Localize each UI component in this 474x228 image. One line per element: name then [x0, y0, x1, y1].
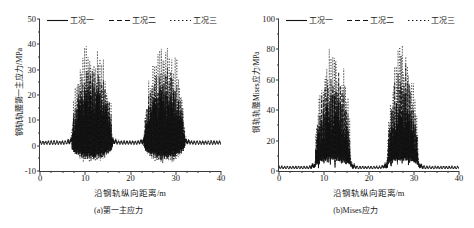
x-tick-mark-minor	[301, 171, 302, 173]
legend-key-solid-icon	[286, 17, 307, 24]
y-axis-label-a: 钢轨轨腰第一主应力/MPa	[13, 8, 27, 176]
legend-label-1: 工况一	[70, 16, 94, 25]
x-tick-mark-minor	[335, 171, 336, 173]
legend-key-dotted-icon	[170, 17, 191, 24]
x-tick-mark-minor	[436, 171, 437, 173]
x-tick-mark	[175, 171, 176, 175]
legend-item-2[interactable]: 工况二	[109, 16, 156, 25]
x-tick-mark	[414, 171, 415, 175]
curve-layer	[279, 19, 459, 171]
x-tick-mark	[369, 171, 370, 175]
curve-layer	[40, 19, 221, 171]
legend-key-dashed-icon	[347, 17, 368, 24]
x-tick-mark-minor	[402, 171, 403, 173]
x-axis-label-b: 沿钢轨纵向距离/m	[278, 186, 459, 198]
x-tick-mark-minor	[153, 171, 154, 173]
y-axis-label-b: 钢轨轨腰Mises应力/MPa	[250, 6, 264, 178]
x-tick-mark-minor	[346, 171, 347, 173]
legend-label-3: 工况三	[431, 16, 455, 25]
caption-a: (a)第一主应力	[0, 204, 237, 215]
legend-label-2: 工况二	[132, 16, 156, 25]
series-curve-工况三	[40, 46, 221, 162]
panel-first-principal-stress: 钢轨轨腰第一主应力/MPa -1001020304050010203040 工况…	[0, 0, 237, 228]
x-tick-mark-minor	[73, 171, 74, 173]
x-tick-mark-minor	[51, 171, 52, 173]
legend-item-3[interactable]: 工况三	[170, 16, 217, 25]
legend-item-3[interactable]: 工况三	[408, 16, 455, 25]
x-tick-mark-minor	[209, 171, 210, 173]
series-curve-工况一	[40, 83, 221, 161]
plot-area-b: 020406080100010203040	[278, 19, 459, 172]
legend-item-1[interactable]: 工况一	[47, 16, 94, 25]
x-tick-mark-minor	[380, 171, 381, 173]
x-tick-mark-minor	[107, 171, 108, 173]
x-tick-mark	[85, 171, 86, 175]
x-tick-mark-minor	[391, 171, 392, 173]
legend-key-dashed-icon	[109, 17, 130, 24]
x-tick-mark-minor	[96, 171, 97, 173]
x-tick-mark	[40, 171, 41, 175]
x-tick-mark-minor	[312, 171, 313, 173]
x-tick-mark	[221, 171, 222, 175]
series-curve-工况二	[279, 65, 459, 169]
series-curve-工况三	[279, 45, 459, 169]
x-tick-mark-minor	[164, 171, 165, 173]
caption-b: (b)Mises应力	[237, 204, 474, 215]
panel-mises-stress: 钢轨轨腰Mises应力/MPa 020406080100010203040 工况…	[237, 0, 474, 228]
x-tick-mark	[324, 171, 325, 175]
legend-item-2[interactable]: 工况二	[347, 16, 394, 25]
x-tick-mark-minor	[198, 171, 199, 173]
x-tick-mark-minor	[119, 171, 120, 173]
legend-a: 工况一工况二工况三	[39, 14, 221, 27]
legend-key-dotted-icon	[408, 17, 429, 24]
x-tick-mark-minor	[425, 171, 426, 173]
x-tick-mark-minor	[290, 171, 291, 173]
legend-label-1: 工况一	[309, 16, 333, 25]
series-curve-工况一	[279, 93, 459, 169]
x-tick-mark	[279, 171, 280, 175]
x-tick-mark-minor	[447, 171, 448, 173]
x-tick-mark-minor	[62, 171, 63, 173]
legend-b: 工况一工况二工况三	[278, 14, 459, 27]
legend-item-1[interactable]: 工况一	[286, 16, 333, 25]
x-tick-mark	[459, 171, 460, 175]
x-tick-mark-minor	[141, 171, 142, 173]
x-tick-mark-minor	[187, 171, 188, 173]
x-axis-label-a: 沿钢轨纵向距离/m	[39, 186, 221, 198]
legend-label-3: 工况三	[193, 16, 217, 25]
legend-key-solid-icon	[47, 17, 68, 24]
series-curve-工况二	[40, 68, 221, 163]
legend-label-2: 工况二	[370, 16, 394, 25]
plot-area-a: -1001020304050010203040	[39, 19, 221, 172]
x-tick-mark-minor	[357, 171, 358, 173]
figure-rail-stress: 钢轨轨腰第一主应力/MPa -1001020304050010203040 工况…	[0, 0, 474, 228]
x-tick-mark	[130, 171, 131, 175]
